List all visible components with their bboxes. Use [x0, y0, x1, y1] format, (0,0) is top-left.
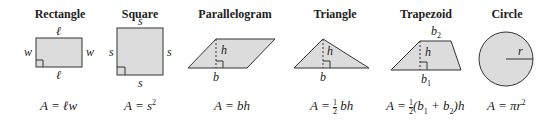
square-bottom-label: s — [138, 76, 143, 91]
parallelogram-height-label: h — [221, 43, 227, 58]
square-shape — [117, 28, 163, 75]
triangle-base-label: b — [320, 70, 326, 85]
triangle-title: Triangle — [305, 7, 365, 22]
rectangle-formula: A = ℓw — [40, 98, 77, 114]
square-left-label: s — [109, 45, 114, 60]
trapezoid-formula: A = 12(b1 + b2)h — [386, 98, 464, 116]
trapezoid-height-label: h — [425, 45, 431, 60]
rect-top-label: ℓ — [56, 24, 61, 39]
trapezoid-title: Trapezoid — [396, 7, 456, 22]
rect-bottom-label: ℓ — [56, 68, 61, 83]
square-right-label: s — [167, 45, 172, 60]
triangle-formula: A = 12 bh — [310, 98, 353, 116]
circle-radius-label: r — [518, 44, 523, 59]
parallelogram-formula: A = bh — [214, 98, 250, 114]
trapezoid-bottom-label: b1 — [421, 72, 431, 88]
square-top-label: s — [138, 14, 143, 29]
triangle-height-label: h — [327, 44, 333, 59]
trapezoid-top-label: b2 — [431, 24, 441, 40]
circle-formula: A = πr2 — [487, 98, 526, 114]
rect-right-label: w — [86, 45, 94, 60]
parallelogram-title: Parallelogram — [195, 7, 275, 22]
rect-left-label: w — [24, 45, 32, 60]
square-formula: A = s2 — [124, 98, 156, 114]
parallelogram-base-label: b — [213, 70, 219, 85]
rectangle-title: Rectangle — [30, 7, 90, 22]
circle-title: Circle — [482, 7, 532, 22]
parallelogram-shape — [188, 39, 275, 68]
